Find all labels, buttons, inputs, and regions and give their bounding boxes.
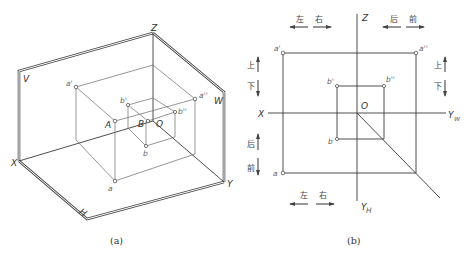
projection-diagram: Z X Y V W H a' a'' A a b' b'' B O b (a)	[0, 0, 464, 255]
caption-b: (b)	[347, 235, 361, 246]
point-b-projections	[128, 98, 175, 146]
svg-text:后: 后	[247, 139, 255, 149]
origin-label-b: O	[361, 101, 368, 111]
label-A: A	[104, 120, 111, 130]
svg-text:下: 下	[434, 82, 442, 91]
label-b-double-prime-b: b''	[386, 75, 395, 84]
svg-text:w: w	[454, 114, 461, 123]
label-a: a	[108, 184, 113, 193]
label-a-prime: a'	[66, 79, 73, 88]
figure-b-orthographic-view: Z X Y w Y H O a' a'' a b' b'' b 左 右 后 前	[247, 13, 461, 246]
svg-text:右: 右	[319, 190, 327, 200]
svg-text:右: 右	[315, 14, 323, 24]
axis-label-y: Y	[227, 179, 234, 189]
label-a-double-prime: a''	[199, 91, 208, 100]
label-O: O	[156, 119, 163, 129]
label-a-b: a	[273, 169, 278, 178]
plane-label-w: W	[214, 96, 224, 106]
point-b-double-prime	[173, 110, 176, 113]
y-axis	[153, 121, 224, 182]
direction-back-front-top: 后 前	[382, 14, 425, 29]
v-plane	[19, 33, 153, 161]
svg-text:后: 后	[390, 14, 398, 24]
plane-label-v: V	[23, 74, 30, 84]
direction-up-down-right: 上 下	[434, 56, 447, 97]
axis-label-yw: Y w	[448, 110, 461, 123]
svg-text:前: 前	[409, 14, 417, 24]
figure-a-isometric-view: Z X Y V W H a' a'' A a b' b'' B O b (a)	[10, 23, 234, 246]
svg-text:上: 上	[434, 61, 442, 70]
axis-label-yh: Y H	[361, 202, 372, 215]
point-A	[113, 119, 117, 123]
point-b-projections-b	[337, 86, 384, 139]
direction-up-down-left: 上 下	[247, 56, 260, 97]
point-a-prime-b	[281, 51, 285, 55]
svg-text:前: 前	[247, 163, 255, 173]
point-a-prime	[74, 85, 78, 89]
label-b-b: b	[328, 137, 333, 146]
point-b	[144, 144, 147, 147]
h-plane	[19, 161, 224, 219]
svg-text:左: 左	[300, 190, 308, 200]
plane-label-h: H	[77, 206, 88, 218]
label-b: b	[143, 149, 148, 158]
direction-back-front-left: 后 前	[247, 133, 260, 176]
label-a-prime-b: a'	[274, 44, 281, 53]
point-B	[146, 119, 149, 122]
point-a-double-prime-b	[414, 51, 418, 55]
point-a	[113, 179, 117, 183]
direction-left-right-top: 左 右	[289, 14, 332, 29]
caption-a: (a)	[110, 235, 123, 246]
svg-text:下: 下	[247, 82, 255, 91]
label-b-double-prime: b''	[178, 107, 187, 116]
point-a-b	[281, 171, 285, 175]
label-B: B	[138, 119, 144, 129]
label-b-prime-b: b'	[327, 77, 334, 86]
axis-label-x-b: X	[257, 109, 265, 119]
svg-text:上: 上	[247, 61, 255, 70]
diagonal-45	[357, 113, 440, 198]
label-b-prime: b'	[120, 96, 127, 105]
axis-label-z: Z	[150, 23, 158, 33]
point-b-prime-b	[335, 84, 338, 87]
point-a-projections	[76, 65, 195, 181]
x-axis	[19, 121, 153, 161]
point-b-b	[335, 137, 338, 140]
svg-text:H: H	[366, 206, 372, 215]
point-b-double-prime-b	[382, 84, 385, 87]
label-a-double-prime-b: a''	[419, 44, 428, 53]
point-a-double-prime	[193, 97, 197, 101]
axis-label-x: X	[10, 158, 18, 168]
point-b-prime	[126, 103, 129, 106]
svg-text:左: 左	[296, 14, 304, 24]
axis-label-z-b: Z	[361, 13, 369, 23]
direction-left-right-bottom: 左 右	[289, 190, 335, 206]
